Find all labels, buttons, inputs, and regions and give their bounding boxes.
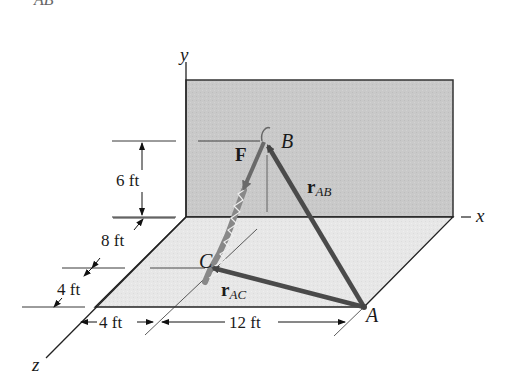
- dim-z-4ft-arrow-top: [84, 268, 92, 276]
- force-f-label: F: [235, 145, 247, 164]
- point-c-label: C: [199, 251, 212, 271]
- dim-6ft-label: 6 ft: [115, 172, 140, 189]
- xz-floor-plane: [95, 217, 453, 307]
- r-ac-label: rAC: [221, 280, 246, 301]
- z-axis-label: z: [32, 355, 39, 374]
- dim-8ft-label: 8 ft: [101, 232, 124, 249]
- dim-z-4ft-label: 4 ft: [57, 281, 80, 298]
- dim-12ft-label: 12 ft: [229, 314, 261, 331]
- top-caption-fragment: AB: [34, 0, 54, 8]
- r-ab-sub: AB: [315, 184, 331, 199]
- r-ab-label: rAB: [307, 177, 331, 198]
- dim-x-4ft-label: 4 ft: [99, 314, 122, 331]
- r-ac-sub: AC: [229, 287, 246, 302]
- point-a-label: A: [366, 305, 378, 325]
- y-axis-label: y: [180, 45, 188, 64]
- vector-diagram: AB y x z B C A F rAB rAC 6 ft 8 ft 4 ft …: [0, 0, 511, 388]
- dim-z-8ft-arrow-bottom: [92, 258, 100, 268]
- x-axis-label: x: [476, 206, 484, 225]
- point-b-label: B: [281, 131, 293, 151]
- dim-z-8ft-arrow-top: [134, 219, 143, 230]
- dim-z-4ft-arrow-bottom: [54, 298, 62, 307]
